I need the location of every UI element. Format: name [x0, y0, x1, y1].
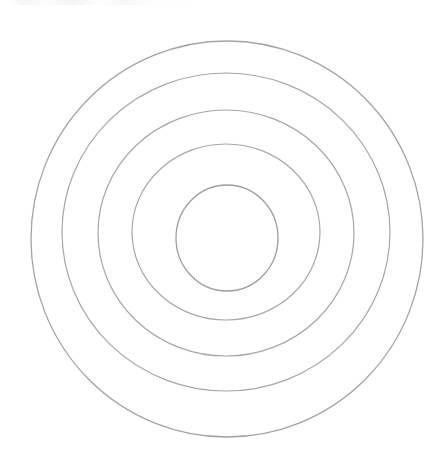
figure-canvas — [0, 0, 447, 456]
concentric-circles-figure — [0, 0, 447, 456]
figure-background — [0, 0, 447, 456]
